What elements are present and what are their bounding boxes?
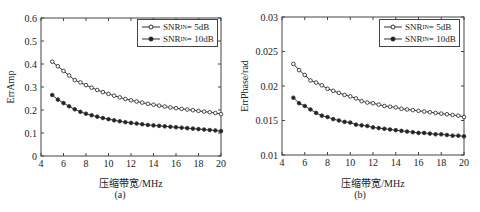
x-tick-label: 10 [104, 158, 114, 169]
data-point [303, 104, 307, 108]
data-point [191, 108, 195, 112]
data-point [348, 95, 352, 99]
data-point [191, 127, 195, 131]
data-point [405, 108, 409, 112]
data-point [400, 129, 404, 133]
legend-a: SNRIN = 5dB SNRIN = 10dB [137, 19, 218, 47]
x-tick-label: 14 [391, 157, 401, 168]
data-point [326, 115, 330, 119]
data-point [50, 93, 54, 97]
x-tick-label: 6 [302, 157, 307, 168]
x-tick-label: 8 [325, 157, 330, 168]
x-tick-label: 20 [459, 157, 469, 168]
data-point [377, 126, 381, 130]
data-point [400, 107, 404, 111]
data-point [326, 87, 330, 91]
data-point [101, 116, 105, 120]
data-point [445, 133, 449, 137]
data-point [388, 105, 392, 109]
data-point [112, 94, 116, 98]
x-tick-label: 14 [149, 158, 159, 169]
data-point [297, 101, 301, 105]
data-point [129, 121, 133, 125]
data-point [197, 127, 201, 131]
data-point [56, 65, 60, 69]
data-point [331, 89, 335, 93]
y-tick-label: 0.3 [25, 82, 38, 93]
data-point [292, 96, 296, 100]
data-point [174, 125, 178, 129]
data-point [118, 96, 122, 100]
data-point [185, 126, 189, 130]
data-point [50, 60, 54, 64]
x-tick-label: 18 [194, 158, 204, 169]
data-point [152, 103, 156, 107]
series-line [52, 62, 221, 114]
y-tick-label: 0.01 [261, 150, 279, 161]
data-point [348, 121, 352, 125]
data-point [337, 119, 341, 123]
y-tick-label: 0.5 [25, 36, 38, 47]
data-point [411, 108, 415, 112]
data-point [422, 131, 426, 135]
y-tick-label: 0.02 [261, 81, 279, 92]
data-point [157, 104, 161, 108]
data-point [152, 124, 156, 128]
data-point [157, 124, 161, 128]
data-point [208, 128, 212, 132]
data-point [383, 127, 387, 131]
data-point [90, 113, 94, 117]
data-point [79, 81, 83, 85]
data-point [95, 88, 99, 92]
data-point [457, 134, 461, 138]
x-tick-label: 18 [436, 157, 446, 168]
data-point [457, 114, 461, 118]
legend-b: SNRIN = 5dB SNRIN = 10dB [379, 19, 460, 47]
x-tick-label: 8 [84, 158, 89, 169]
data-point [360, 124, 364, 128]
data-point [73, 108, 77, 112]
filled-circle-marker-icon [383, 35, 403, 43]
data-point [371, 126, 375, 130]
data-point [67, 74, 71, 78]
data-point [428, 110, 432, 114]
data-point [383, 104, 387, 108]
data-point [309, 108, 313, 112]
y-tick-label: 0.4 [25, 59, 38, 70]
filled-circle-marker-icon [141, 35, 161, 43]
data-point [124, 120, 128, 124]
data-point [462, 115, 466, 119]
data-point [185, 108, 189, 112]
data-point [124, 97, 128, 101]
data-point [371, 101, 375, 105]
data-point [219, 129, 223, 133]
data-point [163, 125, 167, 129]
data-point [320, 84, 324, 88]
open-circle-marker-icon [141, 23, 161, 31]
data-point [73, 78, 77, 82]
data-point [394, 106, 398, 110]
data-point [314, 111, 318, 115]
data-point [90, 86, 94, 90]
data-point [180, 126, 184, 130]
x-tick-label: 4 [39, 158, 44, 169]
data-point [343, 93, 347, 97]
data-point [445, 112, 449, 116]
data-point [354, 123, 358, 127]
data-point [163, 105, 167, 109]
data-point [62, 101, 66, 105]
data-point [62, 69, 66, 73]
data-point [411, 130, 415, 134]
x-tick-label: 16 [171, 158, 181, 169]
data-point [405, 130, 409, 134]
data-point [354, 97, 358, 101]
legend-item-5db: SNRIN = 5dB [383, 21, 456, 33]
data-point [146, 102, 150, 106]
data-point [67, 105, 71, 109]
chart-panel-a: 46810121416182000.10.20.30.40.50.6ErrAmp… [0, 0, 240, 212]
data-point [366, 101, 370, 105]
x-tick-label: 20 [216, 158, 226, 169]
y-tick-label: 0.03 [261, 12, 279, 23]
data-point [297, 68, 301, 72]
data-point [303, 73, 307, 77]
